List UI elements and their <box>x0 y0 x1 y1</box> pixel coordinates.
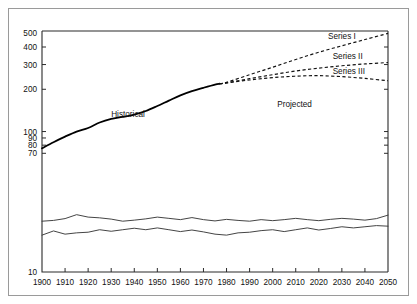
x-tick-label-1950: 1950 <box>148 278 167 287</box>
x-tick-label-2000: 2000 <box>264 278 283 287</box>
x-tick-label-2020: 2020 <box>310 278 329 287</box>
chart-figure: 50040030020010090807010 1900191019201930… <box>0 0 417 304</box>
x-tick-label-1920: 1920 <box>79 278 98 287</box>
y-tick-label-300: 300 <box>23 61 37 70</box>
x-tick-label-1910: 1910 <box>56 278 75 287</box>
x-tick-label-2010: 2010 <box>287 278 306 287</box>
x-tick-label-1960: 1960 <box>171 278 190 287</box>
y-tick-label-500: 500 <box>23 29 37 38</box>
x-tick-label-1980: 1980 <box>217 278 236 287</box>
x-tick-label-1940: 1940 <box>125 278 144 287</box>
x-tick-label-1900: 1900 <box>33 278 52 287</box>
series-2-label: Series II <box>333 52 363 61</box>
series-1-label: Series I <box>328 32 356 41</box>
y-tick-label-10: 10 <box>28 268 38 277</box>
x-tick-label-2030: 2030 <box>333 278 352 287</box>
x-tick-label-1970: 1970 <box>194 278 213 287</box>
projected-label: Projected <box>277 100 312 109</box>
x-tick-label-1990: 1990 <box>240 278 259 287</box>
x-tick-label-2040: 2040 <box>356 278 375 287</box>
population-projection-chart: 50040030020010090807010 1900191019201930… <box>0 0 417 304</box>
x-tick-label-2050: 2050 <box>379 278 398 287</box>
x-tick-label-1930: 1930 <box>102 278 121 287</box>
historical-label: Historical <box>111 110 145 119</box>
y-tick-label-70: 70 <box>28 149 38 158</box>
y-tick-label-400: 400 <box>23 43 37 52</box>
y-tick-label-200: 200 <box>23 85 37 94</box>
series-3-label: Series III <box>333 67 365 76</box>
